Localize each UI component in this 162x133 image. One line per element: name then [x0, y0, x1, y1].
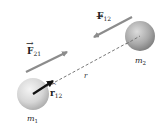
- svg-text:F12: F12: [97, 11, 111, 22]
- svg-text:F21: F21: [27, 46, 41, 57]
- m2-subscript: 2: [143, 60, 147, 66]
- f21-subscript: 21: [33, 50, 41, 57]
- distance-label: r: [84, 72, 88, 80]
- unit-vector-subscript: 12: [55, 92, 63, 99]
- m1-subscript: 1: [35, 118, 39, 124]
- svg-text:m1: m1: [27, 114, 38, 124]
- distance-line: [33, 36, 140, 94]
- svg-text:m2: m2: [135, 56, 146, 66]
- f12-subscript: 12: [103, 15, 111, 22]
- diagram-canvas: → F12 → F21 ^ r12 r m1 m2: [0, 0, 162, 133]
